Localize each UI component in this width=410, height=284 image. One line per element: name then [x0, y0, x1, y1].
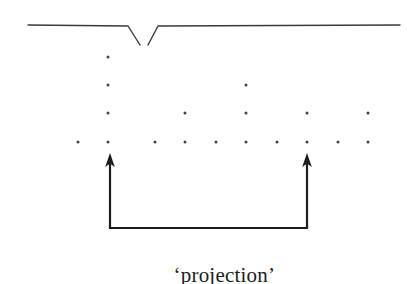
grid-dot — [107, 56, 110, 59]
grid-dot — [245, 84, 248, 87]
projection-bracket-group — [105, 153, 312, 228]
grid-dot — [367, 112, 370, 115]
grid-dot — [367, 141, 370, 144]
projection-figure: ‘projection’ — [0, 0, 410, 284]
grid-dot — [184, 141, 187, 144]
surface-line-group — [28, 25, 400, 45]
grid-dot — [276, 141, 279, 144]
dot-row-1 — [107, 56, 110, 59]
dot-row-2 — [107, 84, 248, 87]
grid-dot — [77, 141, 80, 144]
grid-dot — [215, 141, 218, 144]
dot-row-4 — [77, 141, 370, 144]
grid-dot — [337, 141, 340, 144]
figure-canvas — [0, 0, 410, 284]
grid-dot — [107, 141, 110, 144]
grid-dot — [154, 141, 157, 144]
dot-row-3 — [107, 112, 370, 115]
grid-dot — [306, 112, 309, 115]
grid-dot — [306, 141, 309, 144]
dot-grid-group — [77, 56, 370, 144]
surface-line-left-segment — [28, 25, 140, 45]
grid-dot — [107, 112, 110, 115]
grid-dot — [107, 84, 110, 87]
grid-dot — [184, 112, 187, 115]
surface-line-right-segment — [148, 25, 400, 45]
grid-dot — [245, 112, 248, 115]
grid-dot — [245, 141, 248, 144]
